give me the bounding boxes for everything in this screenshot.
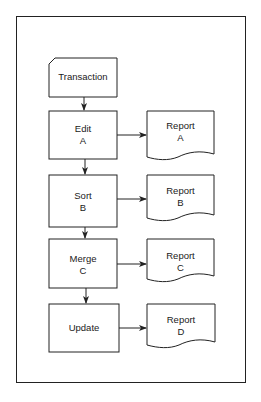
report-d-label: Report D	[147, 314, 215, 338]
transaction-label: Transaction	[49, 71, 117, 83]
report-b-label: Report B	[147, 185, 214, 209]
sort-label: Sort B	[49, 190, 117, 214]
report-a-label: Report A	[147, 120, 214, 144]
update-label: Update	[49, 322, 119, 334]
edit-label: Edit A	[49, 123, 117, 147]
report-c-label: Report C	[147, 250, 214, 274]
merge-label: Merge C	[49, 253, 117, 277]
flowchart-canvas	[0, 0, 261, 402]
